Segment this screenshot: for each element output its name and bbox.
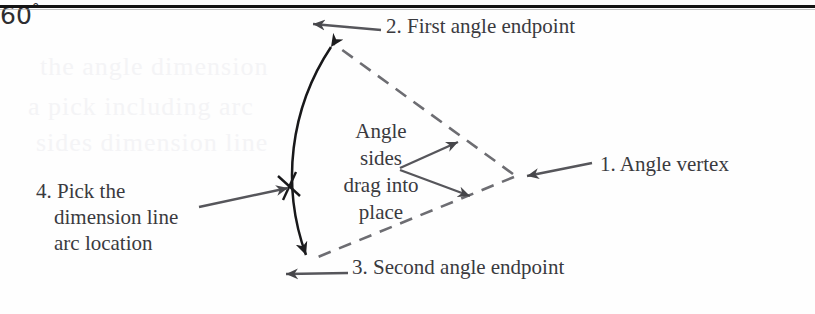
label-angle-vertex: 1. Angle vertex [600, 152, 729, 177]
label-angle-sides-line-1: Angle [322, 118, 440, 145]
label-angle-sides-line-3: drag into [322, 172, 440, 199]
label-angle-sides-line-2: sides [322, 145, 440, 172]
label-angle-sides-drag: Angle sides drag into place [322, 118, 440, 226]
angle-dimension-figure: the angle dimension a pick including arc… [0, 0, 815, 314]
label-first-angle-endpoint: 2. First angle endpoint [386, 14, 575, 39]
label-angle-sides-line-4: place [322, 199, 440, 226]
label-pick-dimension-arc: 4. Pick the dimension line arc location [36, 178, 236, 256]
label-pick-line-2: dimension line [36, 204, 236, 230]
label-pick-line-1: 4. Pick the [36, 178, 236, 204]
label-pick-line-3: arc location [36, 230, 236, 256]
leader-line-angle-vertex [527, 163, 592, 176]
leader-line-first-endpoint [313, 24, 381, 30]
label-second-angle-endpoint: 3. Second angle endpoint [352, 255, 564, 280]
leader-line-second-endpoint [286, 273, 348, 274]
